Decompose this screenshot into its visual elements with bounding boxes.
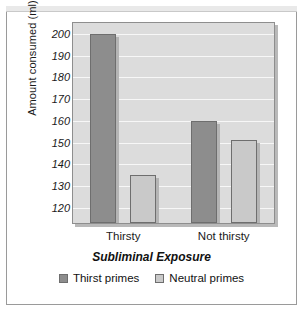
bar-not-thirsty-neutral-primes [231, 140, 257, 223]
bar-thirsty-neutral-primes [130, 175, 156, 223]
legend-item-neutral-primes: Neutral primes [155, 272, 244, 284]
plot-area [72, 22, 275, 224]
legend-label: Neutral primes [169, 272, 244, 284]
x-tick-label-not-thirsty: Not thirsty [174, 230, 274, 242]
y-tick-label: 150 [36, 137, 70, 149]
y-tick-label: 180 [36, 71, 70, 83]
y-tick-label: 170 [36, 93, 70, 105]
x-axis-title: Subliminal Exposure [0, 250, 303, 264]
legend: Thirst primes Neutral primes [0, 272, 303, 284]
y-tick-label: 120 [36, 202, 70, 214]
y-axis-ticks: 200 190 180 170 160 150 140 130 120 [32, 22, 70, 224]
figure-top-band [6, 6, 297, 12]
y-tick-label: 190 [36, 50, 70, 62]
bar-not-thirsty-thirst-primes [191, 121, 217, 223]
legend-swatch-icon [155, 274, 164, 283]
bar-thirsty-thirst-primes [90, 34, 116, 223]
x-tick-label-thirsty: Thirsty [73, 230, 173, 242]
y-tick-label: 140 [36, 158, 70, 170]
y-tick-label: 200 [36, 28, 70, 40]
legend-label: Thirst primes [73, 272, 139, 284]
legend-swatch-icon [59, 274, 68, 283]
legend-item-thirst-primes: Thirst primes [59, 272, 139, 284]
y-tick-label: 130 [36, 180, 70, 192]
figure: Amount consumed (ml) 200 190 180 170 160… [0, 0, 303, 317]
y-tick-label: 160 [36, 115, 70, 127]
